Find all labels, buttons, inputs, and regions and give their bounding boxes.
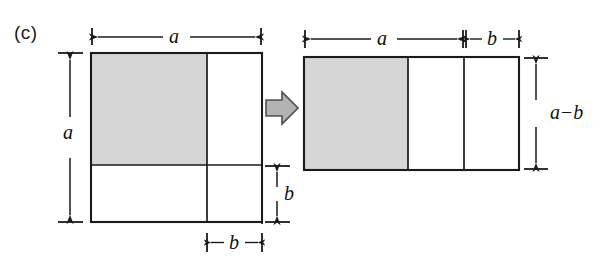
right-shaded-region [304, 57, 408, 170]
right-top-label-a: a [377, 28, 387, 48]
left-top-label-a: a [169, 26, 179, 46]
figure-canvas: (c) a a b b a b a−b [0, 0, 601, 268]
right-top-label-b: b [487, 28, 497, 48]
left-side-label-a: a [63, 122, 73, 142]
label-a: a [550, 101, 560, 123]
right-side-dimension-a-minus-b [524, 58, 548, 169]
panel-label: (c) [14, 22, 38, 44]
label-b: b [573, 101, 583, 123]
right-rectangle-group [304, 57, 519, 170]
minus-sign: − [560, 101, 573, 123]
right-side-label-a-minus-b: a−b [550, 102, 583, 122]
left-square-group [91, 53, 262, 224]
left-bottom-label-b: b [229, 232, 239, 252]
left-right-label-b: b [284, 183, 294, 203]
left-shaded-region [91, 53, 207, 165]
rightwards-block-arrow-icon [266, 92, 298, 124]
geometry-illustration [0, 0, 601, 268]
